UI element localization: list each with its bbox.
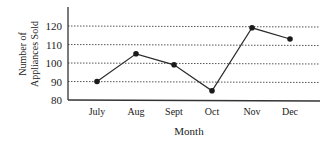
x-tick-label: Aug [127,106,144,117]
y-tick-label: 110 [46,39,63,51]
y-tick-label: 120 [46,20,63,32]
x-tick-label: Oct [205,106,220,117]
data-point-sept [171,62,177,68]
data-series [94,25,293,94]
data-point-july [94,79,100,85]
y-axis-label-line2: Appliances Sold [29,21,40,87]
y-tick-label: 90 [51,76,63,88]
data-point-nov [249,25,255,31]
x-tick-label: Sept [165,106,183,117]
x-tick-label: Nov [243,106,260,117]
gridline-120 [68,26,320,27]
x-axis [68,100,320,101]
gridlines [68,26,320,83]
x-tick-labels: JulyAugSeptOctNovDec [89,106,299,117]
axes [68,7,320,101]
x-axis-label: Month [174,125,204,137]
y-tick-label: 80 [51,94,63,106]
gridline-110 [68,45,320,46]
y-tick-label: 100 [46,57,63,69]
data-point-aug [133,51,139,57]
line-chart: 8090100110120 JulyAugSeptOctNovDec Numbe… [0,0,335,142]
x-tick-label: Dec [282,106,299,117]
data-point-dec [287,36,293,42]
x-tick-label: July [89,106,106,117]
data-point-oct [209,88,215,94]
y-tick-labels: 8090100110120 [46,20,63,106]
gridline-100 [68,63,320,64]
gridline-90 [68,82,320,83]
y-axis-label-line1: Number of [17,32,28,76]
